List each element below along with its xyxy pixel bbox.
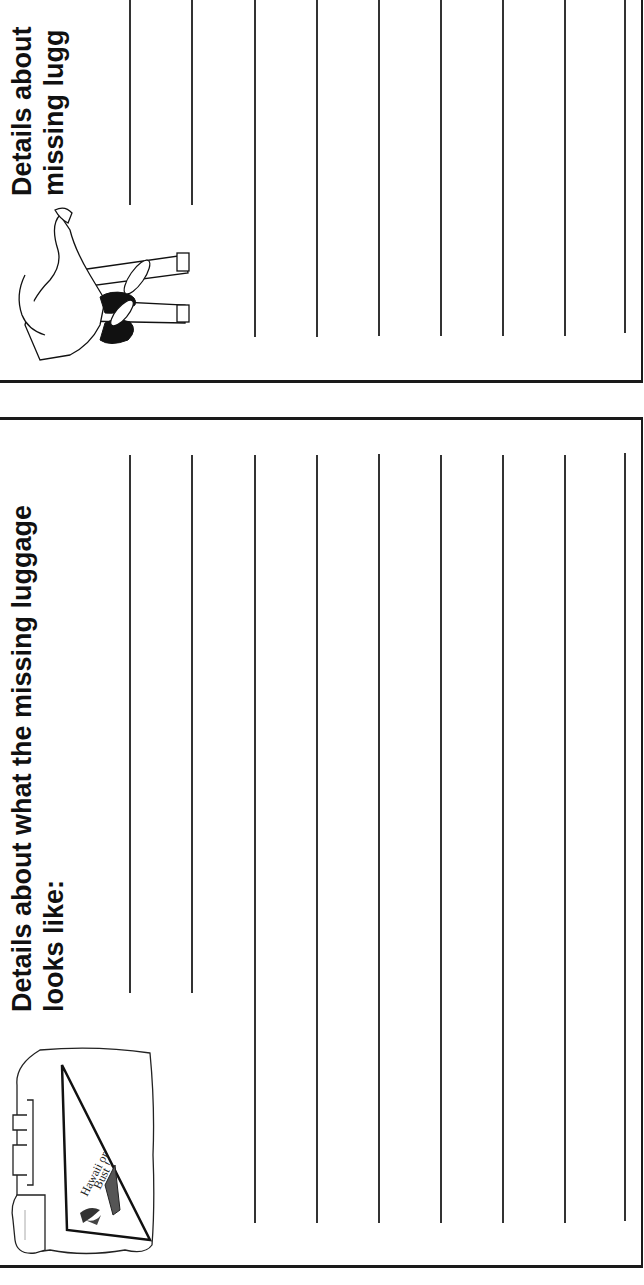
- writing-line[interactable]: [564, 0, 566, 336]
- writing-line[interactable]: [316, 0, 318, 337]
- writing-line[interactable]: [254, 455, 256, 1223]
- bottom-heading-line1: Details about what the missing luggage: [6, 505, 38, 1012]
- writing-line[interactable]: [378, 0, 380, 336]
- bottom-panel-heading: Details about what the missing luggage l…: [6, 505, 70, 1012]
- person-sitting-icon: [10, 205, 195, 365]
- writing-line[interactable]: [378, 454, 380, 1223]
- writing-line[interactable]: [191, 0, 193, 205]
- top-panel-heading: Details about missing lugg: [6, 26, 70, 196]
- writing-line[interactable]: [129, 455, 131, 993]
- writing-line[interactable]: [564, 455, 566, 1223]
- writing-line[interactable]: [129, 0, 131, 205]
- bottom-heading-line2: looks like:: [38, 505, 70, 1012]
- writing-line[interactable]: [624, 0, 626, 333]
- top-heading-line2: missing lugg: [38, 26, 70, 196]
- writing-line[interactable]: [624, 453, 626, 1221]
- suitcase-icon: Hawaii or Bust !: [5, 1045, 155, 1260]
- writing-line[interactable]: [316, 455, 318, 1223]
- writing-line[interactable]: [502, 0, 504, 336]
- writing-line[interactable]: [440, 0, 442, 336]
- writing-line[interactable]: [191, 455, 193, 993]
- writing-line[interactable]: [502, 455, 504, 1223]
- top-heading-line1: Details about: [6, 26, 38, 196]
- writing-line[interactable]: [254, 0, 256, 337]
- writing-line[interactable]: [440, 455, 442, 1223]
